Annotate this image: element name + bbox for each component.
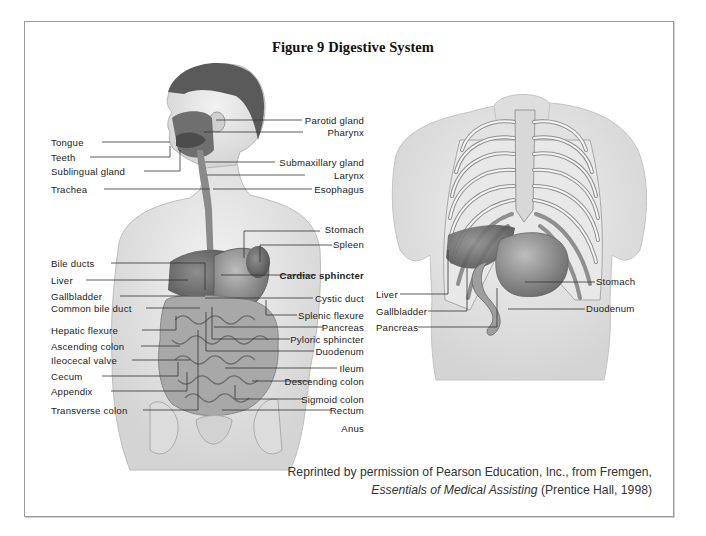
label-submaxillary-gland: Submaxillary gland	[279, 157, 364, 168]
credit-line-2: Essentials of Medical Assisting (Prentic…	[288, 481, 652, 499]
label-teeth: Teeth	[51, 152, 75, 163]
label-duodenum-anterior: Duodenum	[586, 303, 635, 314]
label-bile-ducts: Bile ducts	[51, 258, 95, 269]
label-splenic-flexure: Splenic flexure	[298, 310, 364, 321]
label-stomach: Stomach	[325, 224, 364, 235]
credit-book-title: Essentials of Medical Assisting	[371, 483, 537, 497]
label-tongue: Tongue	[51, 137, 84, 148]
label-pancreas-anterior: Pancreas	[376, 322, 418, 333]
digestive-system-illustration	[0, 0, 706, 536]
label-hepatic-flexure: Hepatic flexure	[51, 325, 118, 336]
label-ascending-colon: Ascending colon	[51, 341, 124, 352]
label-cecum: Cecum	[51, 371, 82, 382]
left-body-figure	[111, 63, 320, 470]
label-sigmoid-colon: Sigmoid colon	[301, 394, 364, 405]
label-descending-colon: Descending colon	[285, 376, 364, 387]
label-rectum: Rectum	[330, 405, 364, 416]
label-trachea: Trachea	[51, 184, 87, 195]
credit-line-1: Reprinted by permission of Pearson Educa…	[288, 463, 652, 481]
right-body-figure	[392, 94, 646, 380]
label-appendix: Appendix	[51, 386, 93, 397]
label-pancreas: Pancreas	[322, 322, 364, 333]
label-sublingual-gland: Sublingual gland	[51, 166, 125, 177]
label-ileum: Ileum	[340, 363, 364, 374]
credit-publisher: (Prentice Hall, 1998)	[538, 483, 652, 497]
label-ileocecal-valve: Ileocecal valve	[51, 355, 117, 366]
label-pharynx: Pharynx	[327, 127, 364, 138]
label-larynx: Larynx	[334, 170, 364, 181]
label-cardiac-sphincter: Cardiac sphincter	[280, 270, 364, 281]
label-anus: Anus	[341, 423, 364, 434]
label-esophagus: Esophagus	[314, 184, 364, 195]
label-transverse-colon: Transverse colon	[51, 405, 127, 416]
label-liver-anterior: Liver	[376, 289, 398, 300]
label-parotid-gland: Parotid gland	[305, 115, 364, 126]
label-spleen: Spleen	[333, 239, 364, 250]
label-duodenum: Duodenum	[315, 346, 364, 357]
label-gallbladder: Gallbladder	[51, 291, 102, 302]
label-common-bile-duct: Common bile duct	[51, 303, 132, 314]
label-stomach-anterior: Stomach	[596, 276, 635, 287]
label-liver: Liver	[51, 275, 73, 286]
label-cystic-duct: Cystic duct	[315, 293, 364, 304]
label-pyloric-sphincter: Pyloric sphincter	[290, 334, 364, 345]
label-gallbladder-anterior: Gallbladder	[376, 306, 427, 317]
figure-credit: Reprinted by permission of Pearson Educa…	[288, 463, 652, 499]
